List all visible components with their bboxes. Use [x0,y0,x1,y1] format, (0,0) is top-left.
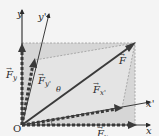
force-diagram: y y' x x' O →F →Fy →Fy' →Fx' →Fx θ [0,0,159,136]
fx-label: →Fx [97,129,108,136]
vector-arrow-icon: → [38,72,43,79]
y-axis-label: y [17,9,23,19]
f-label: →F [119,56,126,66]
origin-label: O [13,123,21,134]
diagram-canvas [0,0,159,136]
fx-prime-label: →Fx' [93,85,106,97]
vector-arrow-icon: → [97,125,102,132]
vector-arrow-icon: → [6,66,11,73]
vector-arrow-icon: → [119,52,124,59]
x-prime-axis-label: x' [146,99,154,109]
x-axis-label: x [146,126,152,136]
y-prime-axis-label: y' [38,12,46,22]
fy-label: →Fy [6,70,17,82]
theta-label: θ [56,86,61,94]
vector-arrow-icon: → [93,81,98,88]
fy-prime-label: →Fy' [38,76,51,88]
